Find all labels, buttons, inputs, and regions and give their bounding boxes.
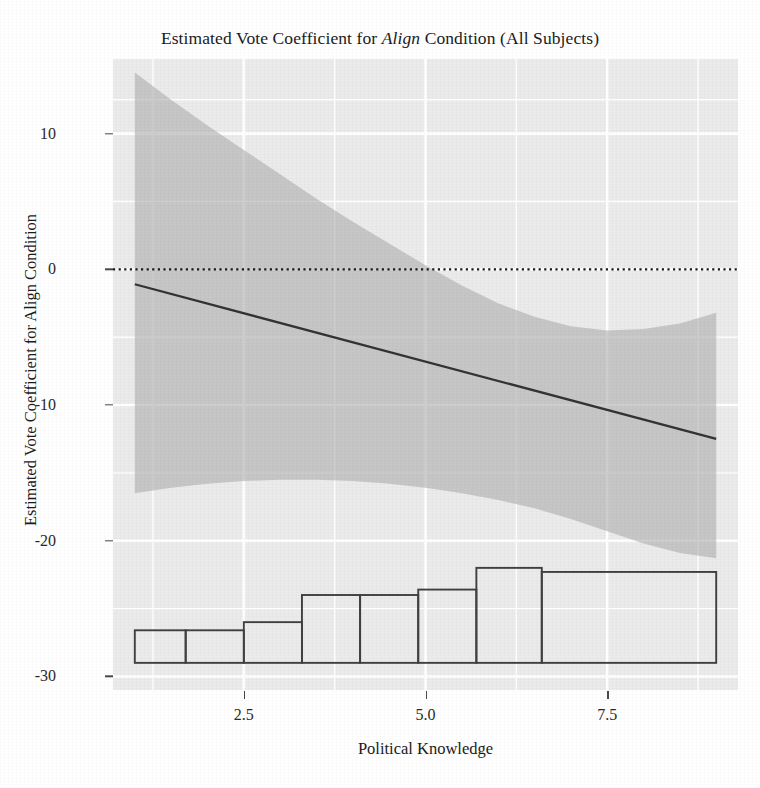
y-tick-mark [105, 676, 113, 677]
y-tick-label: -10 [0, 397, 56, 413]
x-tick-label: 5.0 [386, 706, 466, 724]
x-tick-mark [426, 691, 427, 699]
chart-title-text-after: Condition (All Subjects) [420, 28, 599, 48]
x-tick-mark [244, 691, 245, 699]
plot-panel [113, 59, 738, 690]
y-tick-mark [105, 540, 113, 541]
chart-title-text-italic: Align [382, 28, 420, 48]
y-tick-label: -20 [0, 533, 56, 549]
x-tick-label: 2.5 [204, 706, 284, 724]
y-tick-mark [105, 404, 113, 405]
x-tick-mark [607, 691, 608, 699]
y-tick-label: -30 [0, 668, 56, 684]
y-tick-label: 0 [0, 261, 56, 277]
chart-title-text-before: Estimated Vote Coefficient for [161, 28, 382, 48]
y-tick-mark [105, 133, 113, 134]
y-axis-title: Estimated Vote Coefficient for Align Con… [16, 50, 46, 690]
x-tick-label: 7.5 [567, 706, 647, 724]
plot-svg [113, 59, 738, 690]
x-axis-title: Political Knowledge [113, 739, 738, 759]
chart-figure: Estimated Vote Coefficient for Align Con… [0, 0, 760, 788]
y-tick-label: 10 [0, 126, 56, 142]
y-tick-mark [105, 269, 113, 270]
chart-title: Estimated Vote Coefficient for Align Con… [0, 28, 760, 49]
